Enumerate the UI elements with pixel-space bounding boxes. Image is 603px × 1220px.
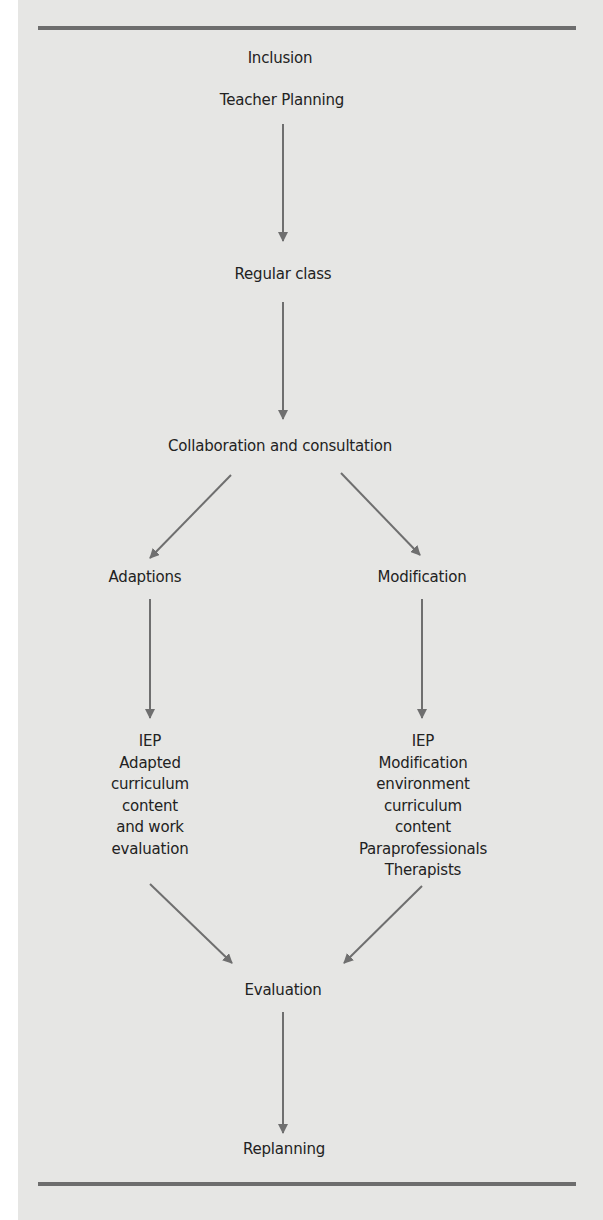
node-replanning: Replanning	[243, 1139, 325, 1161]
detail-line: content	[359, 817, 487, 839]
detail-line: environment	[359, 774, 487, 796]
arrow-right-iep-to-evaluation	[344, 886, 422, 963]
flow-arrows	[0, 0, 603, 1220]
node-teacher-planning: Teacher Planning	[220, 90, 344, 112]
detail-line: IEP	[111, 731, 189, 753]
diagram-title: Inclusion	[248, 48, 313, 70]
detail-line: Adapted	[111, 753, 189, 775]
node-adaptions: Adaptions	[109, 567, 182, 589]
arrow-left-iep-to-evaluation	[150, 884, 232, 963]
node-collaboration-consultation: Collaboration and consultation	[168, 436, 392, 458]
detail-line: IEP	[359, 731, 487, 753]
arrow-collaboration-to-adaptions	[150, 475, 231, 558]
node-adaptions-iep-detail: IEP Adapted curriculum content and work …	[111, 731, 189, 860]
detail-line: Therapists	[359, 860, 487, 882]
detail-line: and work	[111, 817, 189, 839]
detail-line: content	[111, 796, 189, 818]
node-regular-class: Regular class	[235, 264, 332, 286]
detail-line: Modification	[359, 753, 487, 775]
node-modification: Modification	[377, 567, 466, 589]
detail-line: Paraprofessionals	[359, 839, 487, 861]
node-modification-iep-detail: IEP Modification environment curriculum …	[359, 731, 487, 882]
detail-line: evaluation	[111, 839, 189, 861]
arrow-collaboration-to-modification	[341, 473, 420, 555]
detail-line: curriculum	[111, 774, 189, 796]
node-evaluation: Evaluation	[244, 980, 321, 1002]
detail-line: curriculum	[359, 796, 487, 818]
